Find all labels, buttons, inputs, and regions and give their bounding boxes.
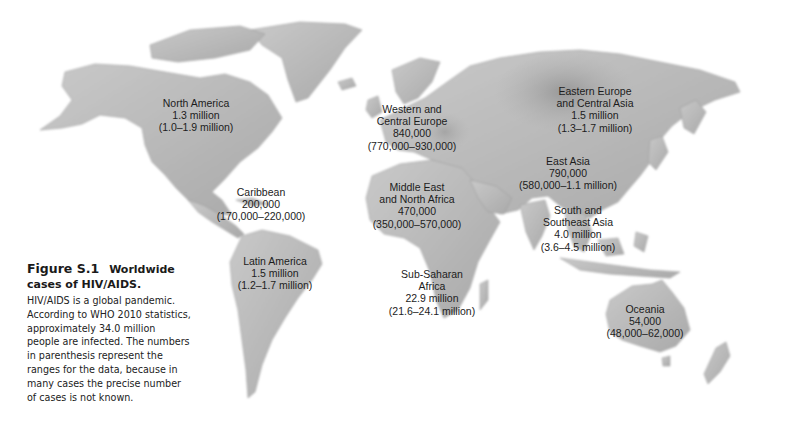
region-range: (1.2–1.7 million)	[238, 279, 313, 291]
caption-line: HIV/AIDS is a global pandemic.	[27, 294, 217, 308]
region-name-line1: South and	[541, 204, 616, 216]
region-name: East Asia	[519, 155, 617, 167]
region-range: (350,000–570,000)	[373, 218, 462, 230]
region-label-western-central-europe: Western and Central Europe 840,000 (770,…	[368, 103, 457, 152]
region-label-sub-saharan-africa: Sub-Saharan Africa 22.9 million (21.6–24…	[389, 268, 475, 317]
region-label-oceania: Oceania 54,000 (48,000–62,000)	[606, 303, 683, 340]
region-range: (1.3–1.7 million)	[556, 122, 633, 134]
region-label-middle-east-north-africa: Middle East and North Africa 470,000 (35…	[373, 181, 462, 230]
region-label-eastern-europe-central-asia: Eastern Europe and Central Asia 1.5 mill…	[556, 85, 633, 134]
region-range: (3.6–4.5 million)	[541, 241, 616, 253]
region-value: 22.9 million	[389, 292, 475, 304]
region-name: Caribbean	[217, 186, 306, 198]
caption-line: ranges for the data, because in	[27, 363, 217, 377]
figure-caption: Figure S.1Worldwide cases of HIV/AIDS. H…	[27, 262, 217, 404]
region-label-south-southeast-asia: South and Southeast Asia 4.0 million (3.…	[541, 204, 616, 253]
greenland	[250, 22, 362, 102]
region-value: 790,000	[519, 167, 617, 179]
figure-title-line2: cases of HIV/AIDS.	[27, 278, 141, 291]
caption-line: approximately 34.0 million	[27, 322, 217, 336]
region-value: 54,000	[606, 315, 683, 327]
region-name-line2: Central Europe	[368, 115, 457, 127]
caption-line: of cases is not known.	[27, 391, 217, 405]
caption-line: in parenthesis represent the	[27, 349, 217, 363]
region-label-north-america: North America 1.3 million (1.0–1.9 milli…	[159, 97, 234, 134]
region-label-latin-america: Latin America 1.5 million (1.2–1.7 milli…	[238, 255, 313, 292]
region-name-line2: Southeast Asia	[541, 216, 616, 228]
caption-line: many cases the precise number	[27, 377, 217, 391]
region-value: 1.5 million	[238, 267, 313, 279]
region-name: North America	[159, 97, 234, 109]
region-value: 840,000	[368, 127, 457, 139]
region-range: (770,000–930,000)	[368, 140, 457, 152]
figure-heading: Figure S.1Worldwide cases of HIV/AIDS.	[27, 262, 217, 292]
region-range: (21.6–24.1 million)	[389, 305, 475, 317]
region-name-line2: and Central Asia	[556, 97, 633, 109]
figure-number: Figure S.1	[27, 261, 99, 276]
figure-caption-body: HIV/AIDS is a global pandemic. According…	[27, 294, 217, 404]
caption-line: people are infected. The numbers	[27, 335, 217, 349]
region-range: (170,000–220,000)	[217, 210, 306, 222]
region-name: Oceania	[606, 303, 683, 315]
figure-title-line1: Worldwide	[109, 263, 175, 276]
region-value: 4.0 million	[541, 228, 616, 240]
region-range: (1.0–1.9 million)	[159, 121, 234, 133]
region-value: 1.5 million	[556, 109, 633, 121]
caption-line: According to WHO 2010 statistics,	[27, 308, 217, 322]
region-label-caribbean: Caribbean 200,000 (170,000–220,000)	[217, 186, 306, 223]
region-name-line1: Eastern Europe	[556, 85, 633, 97]
region-range: (48,000–62,000)	[606, 327, 683, 339]
region-name-line1: Sub-Saharan	[389, 268, 475, 280]
region-name-line2: Africa	[389, 280, 475, 292]
region-label-east-asia: East Asia 790,000 (580,000–1.1 million)	[519, 155, 617, 192]
region-name-line2: and North Africa	[373, 193, 462, 205]
region-value: 470,000	[373, 205, 462, 217]
region-name-line1: Western and	[368, 103, 457, 115]
region-range: (580,000–1.1 million)	[519, 179, 617, 191]
region-name: Latin America	[238, 255, 313, 267]
region-value: 200,000	[217, 198, 306, 210]
region-name-line1: Middle East	[373, 181, 462, 193]
region-value: 1.3 million	[159, 109, 234, 121]
